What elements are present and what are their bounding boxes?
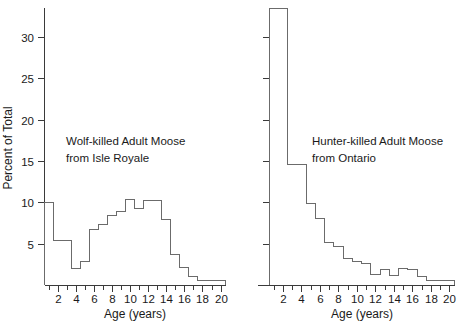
left-x-tick-label: 4 xyxy=(73,293,80,305)
left-y-axis-title: Percent of Total xyxy=(1,106,15,189)
left-x-tick-label: 18 xyxy=(196,293,209,305)
right-x-tick-label: 18 xyxy=(425,293,438,305)
right-x-tick-label: 8 xyxy=(335,293,341,305)
right-x-tick-label: 14 xyxy=(388,293,401,305)
left-y-tick-label: 20 xyxy=(21,115,34,127)
right-x-tick-labels: 2468101214161820 xyxy=(280,293,456,305)
panel-wolf-killed: 51015202530 2468101214161820 Wolf-killed… xyxy=(0,0,240,327)
left-x-tick-label: 12 xyxy=(142,293,155,305)
right-x-axis-title: Age (years) xyxy=(331,307,393,321)
right-x-tick-label: 2 xyxy=(280,293,286,305)
right-chart-svg: 2468101214161820 Hunter-killed Adult Moo… xyxy=(240,0,471,327)
left-x-ticks xyxy=(50,286,222,292)
right-x-tick-label: 10 xyxy=(351,293,364,305)
right-x-tick-label: 12 xyxy=(369,293,382,305)
left-x-axis-title: Age (years) xyxy=(104,307,166,321)
left-y-tick-label: 25 xyxy=(21,73,34,85)
right-x-axis: 2468101214161820 xyxy=(258,286,456,306)
left-y-ticks xyxy=(38,38,45,245)
left-x-tick-label: 14 xyxy=(160,293,173,305)
right-x-tick-label: 4 xyxy=(298,293,305,305)
right-annotation-line2: from Ontario xyxy=(312,152,376,164)
left-x-tick-label: 8 xyxy=(109,293,115,305)
right-annotation-line1: Hunter-killed Adult Moose xyxy=(312,135,443,147)
figure-two-histograms: 51015202530 2468101214161820 Wolf-killed… xyxy=(0,0,471,327)
right-y-ticks xyxy=(263,38,270,245)
right-x-ticks xyxy=(275,286,450,292)
left-annotation-line1: Wolf-killed Adult Moose xyxy=(66,135,185,147)
left-histogram-outline xyxy=(44,200,225,285)
left-x-tick-label: 2 xyxy=(55,293,61,305)
left-y-axis: 51015202530 xyxy=(21,8,44,285)
left-x-tick-label: 16 xyxy=(178,293,191,305)
left-x-tick-label: 6 xyxy=(91,293,97,305)
right-x-tick-label: 20 xyxy=(443,293,456,305)
panel-hunter-killed: 2468101214161820 Hunter-killed Adult Moo… xyxy=(240,0,471,327)
left-chart-svg: 51015202530 2468101214161820 Wolf-killed… xyxy=(0,0,240,327)
left-annotation-line2: from Isle Royale xyxy=(66,152,149,164)
right-y-axis xyxy=(263,8,270,285)
right-x-tick-label: 6 xyxy=(317,293,323,305)
right-x-tick-label: 16 xyxy=(406,293,419,305)
left-x-tick-label: 20 xyxy=(215,293,228,305)
left-y-tick-label: 30 xyxy=(21,32,34,44)
left-x-tick-label: 10 xyxy=(124,293,137,305)
left-x-axis: 2468101214161820 xyxy=(45,286,228,306)
left-x-tick-labels: 2468101214161820 xyxy=(55,293,228,305)
left-y-tick-label: 5 xyxy=(28,239,34,251)
left-y-tick-label: 15 xyxy=(21,156,34,168)
left-y-tick-labels: 51015202530 xyxy=(21,32,34,251)
left-y-tick-label: 10 xyxy=(21,197,34,209)
